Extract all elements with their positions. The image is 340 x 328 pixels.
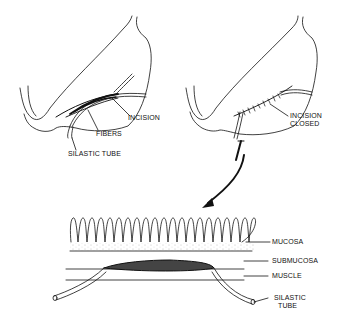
label-incision-closed-line2: CLOSED bbox=[290, 120, 319, 128]
submucosa-stipple bbox=[70, 243, 254, 251]
left-stomach-illustration bbox=[20, 16, 151, 150]
label-incision-closed-line1: INCISION bbox=[290, 112, 322, 120]
label-muscle: MUSCLE bbox=[272, 272, 302, 280]
label-submucosa: SUBMUCOSA bbox=[272, 257, 318, 265]
label-mucosa: MUCOSA bbox=[272, 238, 303, 246]
right-stomach-illustration bbox=[186, 16, 317, 160]
label-silastic-line1: SILASTIC bbox=[274, 294, 306, 302]
label-silastic-line2: TUBE bbox=[278, 302, 297, 310]
label-incision: INCISION bbox=[128, 114, 160, 122]
cross-section-illustration bbox=[53, 218, 270, 305]
label-fibers: FIBERS bbox=[96, 130, 122, 138]
label-silastic-tube: SILASTIC TUBE bbox=[68, 150, 121, 158]
curved-arrow bbox=[202, 155, 244, 208]
